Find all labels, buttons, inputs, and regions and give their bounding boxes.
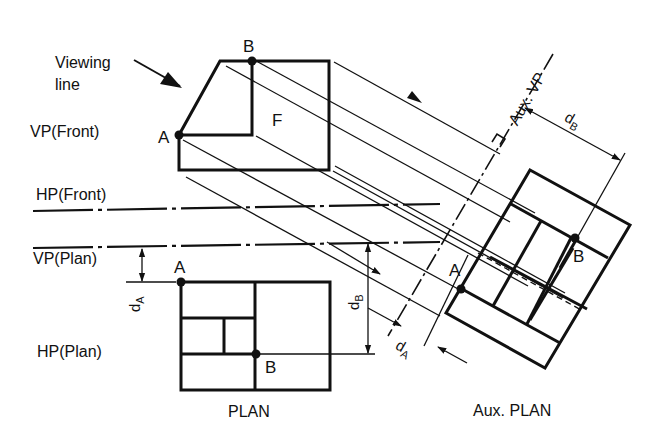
vp-plan-label: VP(Plan) bbox=[33, 251, 97, 267]
aux-point-b bbox=[571, 234, 580, 243]
aux-plan-outline bbox=[446, 170, 630, 368]
projector-arrow-icon bbox=[407, 91, 422, 103]
reference-lines bbox=[33, 204, 440, 248]
front-point-b bbox=[248, 57, 257, 66]
aux-point-a bbox=[457, 285, 466, 294]
aux-plan-view bbox=[446, 170, 630, 368]
plan-point-b-label: B bbox=[265, 359, 276, 376]
front-point-a-label: A bbox=[158, 129, 169, 146]
vp-front-label: VP(Front) bbox=[30, 124, 99, 140]
plan-da-label: dA bbox=[127, 296, 142, 312]
plan-view bbox=[181, 282, 330, 390]
aux-plan-title: Aux. PLAN bbox=[473, 403, 551, 419]
aux-point-a-label: A bbox=[449, 262, 460, 279]
hp-plan-label: HP(Plan) bbox=[37, 344, 102, 360]
front-outline bbox=[179, 61, 329, 170]
aux-point-b-label: B bbox=[573, 248, 584, 265]
hp-front-label: HP(Front) bbox=[36, 187, 106, 203]
viewing-line-label-1: Viewing bbox=[55, 55, 111, 71]
diagram-canvas: Viewing line VP(Front) HP(Front) VP(Plan… bbox=[0, 0, 652, 438]
plan-point-a-label: A bbox=[174, 259, 185, 276]
plan-db-label: dB bbox=[346, 294, 361, 310]
front-view bbox=[179, 61, 329, 170]
face-f-label: F bbox=[272, 112, 282, 129]
front-point-b-label: B bbox=[243, 38, 254, 55]
plan-point-a bbox=[177, 278, 186, 287]
viewing-line-label-2: line bbox=[55, 77, 80, 93]
vp-plan-line bbox=[33, 242, 440, 248]
viewing-line-arrow bbox=[134, 60, 182, 88]
plan-title: PLAN bbox=[228, 404, 270, 420]
front-point-a bbox=[175, 131, 184, 140]
